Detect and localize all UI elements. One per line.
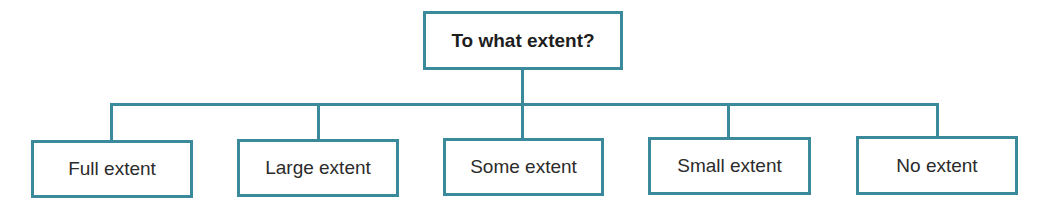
node-label: Large extent: [265, 157, 371, 179]
root-node: To what extent?: [423, 11, 623, 70]
node-no-extent: No extent: [856, 136, 1018, 195]
node-label: Small extent: [677, 155, 782, 177]
connector-large-extent: [317, 103, 320, 141]
root-label: To what extent?: [451, 30, 594, 52]
connector-no-extent: [936, 103, 939, 138]
root-connector: [521, 68, 524, 105]
node-some-extent: Some extent: [443, 138, 604, 196]
node-full-extent: Full extent: [31, 140, 193, 198]
node-label: Full extent: [68, 158, 156, 180]
connector-some-extent: [521, 103, 524, 140]
node-small-extent: Small extent: [648, 137, 811, 195]
horizontal-bus: [110, 103, 939, 106]
node-large-extent: Large extent: [237, 139, 399, 197]
node-label: Some extent: [470, 156, 577, 178]
connector-small-extent: [727, 103, 730, 139]
connector-full-extent: [110, 103, 113, 142]
node-label: No extent: [896, 155, 977, 177]
